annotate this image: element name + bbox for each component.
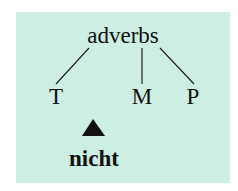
root-node-label: adverbs [87, 23, 159, 48]
child-node-m: M [132, 84, 152, 109]
branch-line-t [56, 48, 89, 84]
up-triangle-icon [82, 119, 105, 136]
child-node-t: T [49, 84, 63, 109]
tree-diagram: adverbs T M P nicht [0, 0, 238, 191]
child-node-p: P [187, 84, 200, 109]
marker-label: nicht [69, 146, 119, 171]
branch-line-p [160, 48, 194, 84]
